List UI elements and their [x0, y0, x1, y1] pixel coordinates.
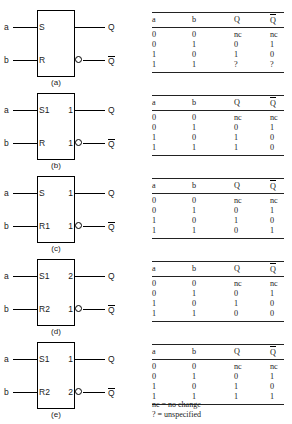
- qbar-overline-text: Q: [108, 222, 115, 232]
- table-row: 0 0 nc nc: [152, 30, 284, 40]
- cell-b: 0: [192, 133, 234, 143]
- port-label-reset: R2: [39, 388, 50, 397]
- table-row: 0 1 0 1: [152, 206, 284, 216]
- signal-label-qbar: Q: [108, 388, 115, 398]
- input-lead-b: [13, 309, 37, 310]
- latch-symbol-box: [37, 10, 75, 77]
- inversion-bubble-icon: [75, 305, 82, 312]
- table-row: 1 0 1 0: [152, 382, 284, 392]
- port-label-out-bot: 2: [64, 388, 73, 397]
- cell-qbar: 0: [270, 50, 284, 60]
- table-body: 0 0 nc nc 0 1 0 1 1 0 1 0 1 1 0 0: [152, 277, 284, 321]
- header-cell-a: a: [152, 346, 192, 358]
- diagram-caption: (e): [26, 410, 86, 419]
- header-cell-q: Q: [234, 14, 270, 26]
- cell-a: 0: [152, 372, 192, 382]
- signal-label-qbar: Q: [108, 222, 115, 232]
- cell-a: 0: [152, 196, 192, 206]
- latch-diagram-b: S1 R 1 1 a b Q Q (b): [0, 83, 146, 167]
- table-row: 1 1 ? ?: [152, 60, 284, 70]
- cell-qbar: nc: [270, 196, 284, 206]
- port-label-out-bot: 1: [64, 305, 73, 314]
- cell-qbar: 1: [270, 40, 284, 50]
- port-label-reset: R: [39, 56, 45, 65]
- port-label-set: S: [39, 189, 45, 198]
- input-lead-b: [13, 226, 37, 227]
- table-row: 0 0 nc nc: [152, 362, 284, 372]
- cell-q: 0: [234, 40, 270, 50]
- cell-a: 0: [152, 279, 192, 289]
- qbar-overline-text: Q: [108, 139, 115, 149]
- input-lead-a: [13, 359, 37, 360]
- port-label-reset: R: [39, 139, 45, 148]
- cell-q: nc: [234, 30, 270, 40]
- cell-a: 0: [152, 362, 192, 372]
- header-cell-b: b: [192, 14, 234, 26]
- table-row: 1 0 1 0: [152, 216, 284, 226]
- table-header-row: a b Q Q: [152, 96, 284, 110]
- latch-diagram-c: S R1 1 1 a b Q Q (c): [0, 166, 146, 250]
- inversion-bubble-icon: [75, 388, 82, 395]
- truth-table-b: a b Q Q 0 0 nc nc 0 1 0 1 1 0 1 0: [152, 95, 284, 156]
- table-row: 1 0 1 0: [152, 133, 284, 143]
- port-label-set: S: [39, 23, 45, 32]
- cell-a: 1: [152, 50, 192, 60]
- signal-label-a: a: [4, 23, 9, 32]
- signal-label-qbar: Q: [108, 305, 115, 315]
- input-lead-b: [13, 392, 37, 393]
- cell-q: 0: [234, 289, 270, 299]
- cell-a: 1: [152, 216, 192, 226]
- input-lead-b: [13, 60, 37, 61]
- cell-b: 1: [192, 226, 234, 236]
- output-lead-q: [75, 27, 105, 28]
- table-body: 0 0 nc nc 0 1 0 1 1 0 1 0 1 1 ? ?: [152, 28, 284, 72]
- cell-a: 0: [152, 206, 192, 216]
- header-cell-b: b: [192, 180, 234, 192]
- table-row: 0 0 nc nc: [152, 279, 284, 289]
- table-row: 1 1 0 1: [152, 226, 284, 236]
- cell-q: 1: [234, 299, 270, 309]
- table-row: 0 0 nc nc: [152, 113, 284, 123]
- port-label-set: S1: [39, 106, 49, 115]
- signal-label-q: Q: [108, 355, 115, 364]
- inversion-bubble-icon: [75, 56, 82, 63]
- table-rule-bottom: [152, 321, 284, 322]
- signal-label-b: b: [4, 222, 9, 231]
- header-qbar-overline-text: Q: [270, 97, 276, 110]
- table-body: 0 0 nc nc 0 1 0 1 1 0 1 0 1 1 0 1: [152, 194, 284, 238]
- signal-label-b: b: [4, 139, 9, 148]
- signal-label-b: b: [4, 388, 9, 397]
- cell-a: 1: [152, 299, 192, 309]
- cell-b: 1: [192, 123, 234, 133]
- cell-q: nc: [234, 113, 270, 123]
- signal-label-a: a: [4, 106, 9, 115]
- cell-qbar: 0: [270, 143, 284, 153]
- output-lead-qbar: [83, 60, 105, 61]
- cell-a: 1: [152, 60, 192, 70]
- cell-b: 0: [192, 299, 234, 309]
- cell-q: 1: [234, 216, 270, 226]
- cell-b: 0: [192, 50, 234, 60]
- truth-table-a: a b Q Q 0 0 nc nc 0 1 0 1 1 0 1 0: [152, 12, 284, 73]
- table-row: 1 1 0 0: [152, 309, 284, 319]
- cell-q: 0: [234, 123, 270, 133]
- cell-b: 1: [192, 372, 234, 382]
- input-lead-b: [13, 143, 37, 144]
- cell-qbar: 1: [270, 226, 284, 236]
- header-qbar-overline-text: Q: [270, 14, 276, 27]
- port-label-reset: R2: [39, 305, 50, 314]
- truth-table-d: a b Q Q 0 0 nc nc 0 1 0 1 1 0 1 0: [152, 261, 284, 322]
- signal-label-q: Q: [108, 106, 115, 115]
- latch-symbol-box: [37, 93, 75, 160]
- figure-sr-latch-variants: S R a b Q Q (a) S1 R 1 1 a b Q Q (b) S R…: [0, 0, 292, 424]
- cell-q: nc: [234, 196, 270, 206]
- truth-table-c: a b Q Q 0 0 nc nc 0 1 0 1 1 0 1 0: [152, 178, 284, 239]
- header-cell-qbar: Q: [270, 263, 284, 275]
- cell-qbar: 0: [270, 299, 284, 309]
- cell-qbar: 0: [270, 216, 284, 226]
- cell-q: 1: [234, 143, 270, 153]
- table-header-row: a b Q Q: [152, 179, 284, 193]
- output-lead-qbar: [83, 226, 105, 227]
- latch-diagram-e: S1 R2 1 2 a b Q Q (e): [0, 332, 146, 416]
- cell-b: 1: [192, 40, 234, 50]
